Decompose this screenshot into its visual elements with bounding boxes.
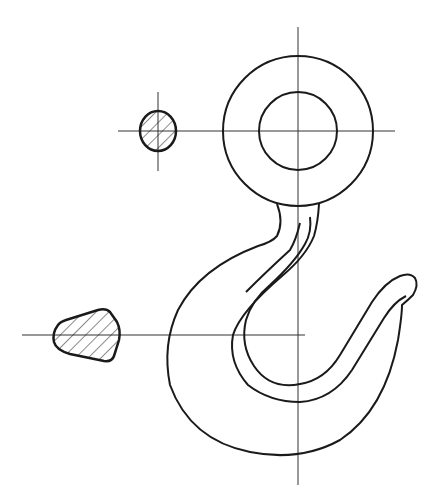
round-section bbox=[140, 111, 176, 151]
center-lines bbox=[22, 27, 395, 485]
hook-body bbox=[167, 204, 416, 455]
trapezoid-section bbox=[54, 309, 120, 361]
hook-drawing bbox=[0, 0, 444, 497]
